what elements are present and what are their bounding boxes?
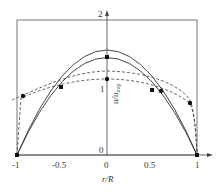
y-tick-1: 1 (100, 84, 105, 94)
x-tick: -1 (12, 160, 20, 170)
chart: 2 1 0 -1 -0.5 0 0.5 1 r/R u/uavg (0, 0, 220, 194)
x-tick: 1 (195, 160, 200, 170)
x-axis-label: r/R (102, 174, 114, 184)
x-axis-arrow-icon (207, 153, 213, 157)
y-tick-2: 2 (98, 9, 103, 19)
y-axis-label-main: u/u (110, 92, 120, 104)
series-dashed-upper (12, 71, 197, 155)
marker (188, 101, 192, 105)
y-axis-label-sub: avg (115, 84, 121, 93)
marker (150, 88, 154, 92)
x-tick: 0 (104, 160, 109, 170)
marker (59, 85, 63, 89)
x-tick: 0.5 (144, 160, 156, 170)
x-tick: -0.5 (52, 160, 67, 170)
y-tick-0: 0 (99, 145, 104, 155)
marker (21, 94, 25, 98)
y-axis-arrow-icon (105, 10, 109, 16)
marker (195, 153, 199, 157)
marker (159, 89, 163, 93)
marker (105, 77, 109, 81)
marker (15, 153, 19, 157)
marker (105, 55, 109, 59)
y-axis-label: u/uavg (110, 84, 121, 104)
